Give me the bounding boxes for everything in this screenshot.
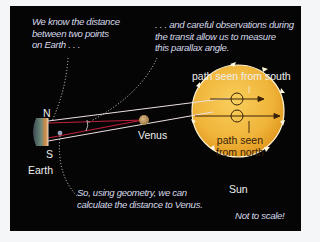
label-south: S <box>46 148 53 160</box>
note-parallax-angle: . . . and careful observations during th… <box>155 19 294 54</box>
note-geometry: So, using geometry, we can calculate the… <box>77 187 203 210</box>
label-path-south: path seen from south <box>192 70 291 82</box>
parallax-lines <box>48 120 143 138</box>
note-distance-on-earth: We know the distance between two points … <box>32 16 120 51</box>
venus <box>139 115 149 125</box>
angle-symbol: ° <box>88 120 90 126</box>
label-venus: Venus <box>138 129 167 141</box>
label-north: N <box>43 107 51 119</box>
label-path-north: path seen from north <box>216 134 264 158</box>
label-earth: Earth <box>28 164 53 176</box>
note-not-to-scale: Not to scale! <box>235 210 284 222</box>
label-sun: Sun <box>229 183 248 195</box>
